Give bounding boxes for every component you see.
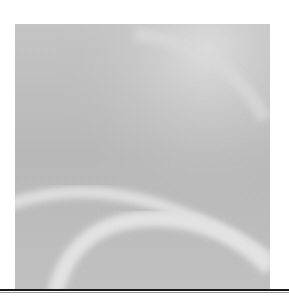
arcs-graphic xyxy=(15,24,270,289)
horizontal-rule xyxy=(0,289,289,291)
decorative-figure xyxy=(15,24,270,289)
horizontal-rule-shadow xyxy=(0,292,289,293)
